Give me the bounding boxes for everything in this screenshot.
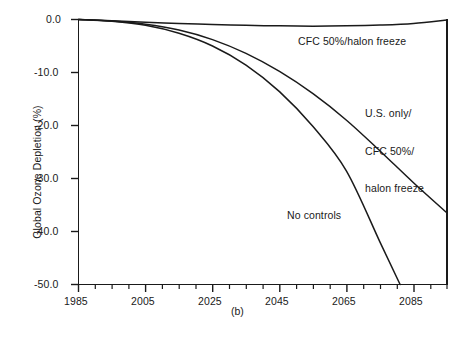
series-label-us-only-line2: CFC 50%/ (365, 145, 424, 158)
series-label-us-only-line3: halon freeze (365, 182, 424, 195)
series-curve-2 (79, 20, 401, 285)
ozone-depletion-chart: 0.0 -10.0 -20.0 -30.0 -40.0 -50.0 1985 2… (0, 0, 468, 337)
x-tick-label-2: 2025 (198, 295, 222, 308)
x-tick-label-1: 2005 (131, 295, 155, 308)
x-tick-label-5: 2085 (399, 295, 423, 308)
series-label-no-controls: No controls (287, 209, 341, 222)
series-label-cfc-halon-freeze: CFC 50%/halon freeze (298, 35, 406, 48)
series-label-us-only: U.S. only/ CFC 50%/ halon freeze (365, 82, 424, 220)
series-label-us-only-line1: U.S. only/ (365, 107, 424, 120)
y-tick-label-1: -10.0 (34, 66, 58, 79)
y-axis-title: Global Ozone Depletion (%) (31, 87, 43, 257)
y-axis-major-ticks (71, 20, 78, 285)
y-axis-title-wrap: Global Ozone Depletion (%) (8, 60, 26, 260)
x-tick-label-0: 1985 (64, 295, 88, 308)
y-tick-label-0: 0.0 (46, 13, 61, 26)
x-tick-label-4: 2065 (332, 295, 356, 308)
figure-caption: (b) (231, 305, 244, 317)
x-tick-label-3: 2045 (265, 295, 289, 308)
y-tick-label-5: -50.0 (34, 278, 58, 291)
